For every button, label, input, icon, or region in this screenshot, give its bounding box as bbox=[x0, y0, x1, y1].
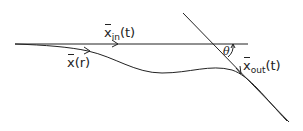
trajectory-label: x(r) bbox=[67, 56, 90, 69]
trajectory-argument: (r) bbox=[75, 55, 91, 70]
outgoing-label: xout(t) bbox=[243, 59, 281, 72]
outgoing-argument: (t) bbox=[265, 58, 280, 73]
incoming-subscript: in bbox=[112, 32, 120, 42]
trajectory-symbol: x bbox=[67, 56, 75, 69]
outgoing-subscript: out bbox=[251, 65, 266, 75]
outgoing-symbol: x bbox=[243, 59, 251, 72]
incoming-label: xin(t) bbox=[104, 26, 135, 39]
incoming-symbol: x bbox=[104, 26, 112, 39]
scattering-diagram: xin(t) x(r) xout(t) θ bbox=[0, 0, 303, 131]
incoming-argument: (t) bbox=[120, 25, 135, 40]
angle-label: θ bbox=[223, 46, 230, 57]
trajectory-curve bbox=[15, 44, 287, 121]
